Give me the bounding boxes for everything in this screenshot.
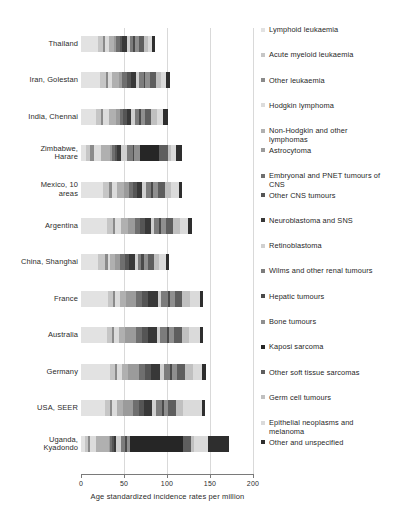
bar-segment — [81, 36, 98, 52]
legend-swatch — [261, 269, 265, 273]
bar-segment — [81, 218, 107, 234]
bar-segment — [94, 145, 101, 161]
bar-segment — [194, 436, 208, 452]
legend-label: Hodgkin lymphoma — [269, 102, 413, 111]
legend-label: Wilms and other renal tumours — [269, 267, 413, 276]
legend-swatch — [261, 103, 265, 107]
bar-segment — [159, 145, 168, 161]
legend-label: Epithelial neoplasms andmelanoma — [269, 419, 413, 437]
legend-swatch — [261, 129, 265, 133]
legend-item[interactable]: Bone tumours — [261, 318, 413, 327]
legend-swatch — [261, 294, 265, 298]
legend-item[interactable]: Retinoblastoma — [261, 242, 413, 251]
bar-segment — [189, 327, 199, 343]
bar-segment — [163, 109, 168, 125]
legend-item[interactable]: Non-Hodgkin and otherlymphomas — [261, 127, 413, 145]
bar-segment — [171, 182, 179, 198]
bar-segment — [183, 400, 202, 416]
legend-label: Hepatic tumours — [269, 293, 413, 302]
x-tick — [253, 474, 254, 478]
stacked-bar — [81, 72, 170, 88]
bar-segment — [90, 436, 97, 452]
bar-segment — [158, 182, 165, 198]
bar-segment — [176, 145, 182, 161]
legend-swatch — [261, 421, 265, 425]
bar-segment — [81, 109, 96, 125]
legend-label: Other CNS tumours — [269, 192, 413, 201]
legend-item[interactable]: Lymphoid leukaemia — [261, 26, 413, 35]
bar-segment — [144, 400, 153, 416]
bar-segment — [148, 327, 157, 343]
bar-segment — [140, 145, 159, 161]
bar-segment — [128, 364, 138, 380]
bar-segment — [160, 327, 167, 343]
stacked-bar — [81, 254, 169, 270]
bar-segment — [81, 182, 103, 198]
legend-item[interactable]: Astrocytoma — [261, 147, 413, 156]
bar-segment — [130, 436, 183, 452]
x-tick-label: 150 — [190, 480, 230, 487]
legend-label: Retinoblastoma — [269, 242, 413, 251]
bar-segment — [183, 436, 191, 452]
legend-item[interactable]: Other leukaemia — [261, 77, 413, 86]
legend-item[interactable]: Epithelial neoplasms andmelanoma — [261, 419, 413, 437]
category-label: Iran, Golestan — [12, 76, 78, 85]
legend-item[interactable]: Acute myeloid leukaemia — [261, 51, 413, 60]
bar-segment — [96, 436, 108, 452]
bar-segment — [121, 218, 128, 234]
bar-segment — [126, 291, 136, 307]
x-tick — [210, 474, 211, 478]
category-label: Germany — [12, 368, 78, 377]
bar-segment — [177, 364, 185, 380]
bar-segment — [159, 254, 166, 270]
bar-segment — [81, 72, 100, 88]
legend-swatch — [261, 193, 265, 197]
legend-item[interactable]: Kaposi sarcoma — [261, 343, 413, 352]
bar-segment — [185, 364, 193, 380]
legend-swatch — [261, 28, 265, 32]
bar-segment — [164, 364, 171, 380]
legend-swatch — [261, 345, 265, 349]
bar-segment — [128, 218, 135, 234]
legend-label: Kaposi sarcoma — [269, 343, 413, 352]
legend-item[interactable]: Other and unspecified — [261, 439, 413, 448]
category-label: USA, SEER — [12, 404, 78, 413]
bar-segment — [81, 327, 107, 343]
bar-segment — [152, 36, 155, 52]
bar-segment — [123, 400, 133, 416]
x-axis-label: Age standardized incidence rates per mil… — [60, 492, 275, 501]
stacked-bar — [81, 291, 203, 307]
bar-segment — [81, 400, 105, 416]
legend-item[interactable]: Germ cell tumours — [261, 394, 413, 403]
legend-item[interactable]: Wilms and other renal tumours — [261, 267, 413, 276]
legend-swatch — [261, 370, 265, 374]
bar-segment — [173, 218, 180, 234]
legend-label: Non-Hodgkin and otherlymphomas — [269, 127, 413, 145]
bar-segment — [180, 218, 189, 234]
x-tick-label: 100 — [147, 480, 187, 487]
legend-label: Astrocytoma — [269, 147, 413, 156]
legend-item[interactable]: Embryonal and PNET tumours ofCNS — [261, 172, 413, 190]
legend-label: Other soft tissue sarcomas — [269, 369, 413, 378]
legend-swatch — [261, 53, 265, 57]
bar-segment — [190, 291, 199, 307]
category-label: Mexico, 10areas — [12, 181, 78, 198]
bar-row: Thailand — [0, 36, 416, 52]
legend-item[interactable]: Other soft tissue sarcomas — [261, 369, 413, 378]
bar-segment — [81, 364, 110, 380]
bar-row: Australia — [0, 327, 416, 343]
legend-item[interactable]: Neuroblastoma and SNS — [261, 217, 413, 226]
legend-item[interactable]: Hepatic tumours — [261, 293, 413, 302]
category-label: Thailand — [12, 40, 78, 49]
x-tick — [167, 474, 168, 478]
legend-item[interactable]: Other CNS tumours — [261, 192, 413, 201]
bar-segment — [202, 400, 205, 416]
legend-swatch — [261, 440, 265, 444]
legend-item[interactable]: Hodgkin lymphoma — [261, 102, 413, 111]
bar-segment — [148, 291, 157, 307]
bar-segment — [166, 254, 169, 270]
legend-label: Bone tumours — [269, 318, 413, 327]
x-tick — [81, 474, 82, 478]
legend-label: Lymphoid leukaemia — [269, 26, 413, 35]
bar-segment — [188, 218, 191, 234]
